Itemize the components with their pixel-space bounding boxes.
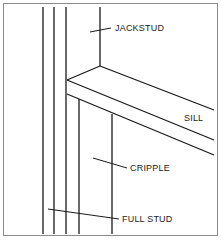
sill-back-edge	[100, 66, 214, 110]
sill-label: SILL	[184, 114, 203, 123]
full-stud-label: FULL STUD	[122, 215, 172, 224]
cripple-label: CRIPPLE	[130, 164, 170, 173]
cripple-leader	[93, 158, 127, 168]
sill-front-top-edge	[67, 80, 214, 140]
full-stud-leader	[48, 209, 119, 219]
jackstud-label: JACKSTUD	[115, 24, 164, 33]
sill-front-bottom-edge	[67, 94, 214, 155]
sill-side-edge	[67, 66, 100, 80]
